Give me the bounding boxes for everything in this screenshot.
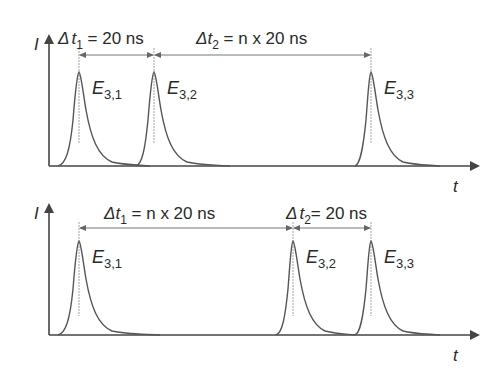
pulse-timing-diagram: I t Δt1 = 20 ns Δt2 = n x 20 ns E3,1 E3,… [0,0,499,378]
interval-dt1-label: Δt1 = 20 ns [57,29,144,52]
pulse-label-e31: E3,1 [92,247,122,271]
pulse-label-e33: E3,3 [384,78,414,102]
pulse-label-e33: E3,3 [384,247,414,271]
interval-dt2-label: Δt2 = n x 20 ns [195,29,307,52]
pulse-label-e31: E3,1 [92,78,122,102]
interval-dt1-label: Δt1 = n x 20 ns [103,204,215,227]
y-axis-label: I [34,35,39,54]
y-axis-label: I [34,204,39,223]
top-panel: I t Δt1 = 20 ns Δt2 = n x 20 ns E3,1 E3,… [34,29,478,196]
bottom-panel: I t Δt1 = n x 20 ns Δt2= 20 ns E3,1 E3,2… [34,204,478,365]
pulse-label-e32: E3,2 [306,247,336,271]
pulse-label-e32: E3,2 [167,78,197,102]
x-axis-label: t [453,346,459,365]
interval-dt2-label: Δt2= 20 ns [285,204,367,227]
x-axis-label: t [453,177,459,196]
